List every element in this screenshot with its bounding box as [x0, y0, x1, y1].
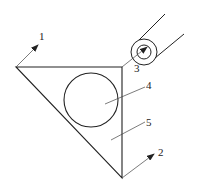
center-hole	[64, 73, 118, 127]
arrow-1	[16, 45, 38, 67]
diagram-canvas: 1 3 4 5 2	[0, 0, 199, 190]
label-4: 4	[146, 79, 152, 91]
arrow-2	[122, 154, 154, 178]
tube-component	[131, 14, 184, 65]
label-3: 3	[134, 62, 140, 74]
leader-4	[105, 87, 145, 104]
label-5: 5	[146, 116, 152, 128]
leader-5	[111, 122, 145, 140]
label-1: 1	[39, 30, 45, 42]
label-2: 2	[158, 146, 164, 158]
